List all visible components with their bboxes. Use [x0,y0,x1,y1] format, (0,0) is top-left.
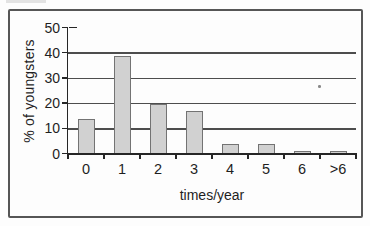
x-tick-mark-0 [67,154,69,159]
x-tick-label-1: 1 [104,160,140,178]
y-tick-mark-10 [62,128,68,130]
x-tick-label-0: 0 [68,160,104,178]
x-tick-mark-6 [283,154,285,159]
x-tick-label-6: 6 [284,160,320,178]
x-tick-mark-2 [139,154,141,159]
x-axis-title: times/year [68,187,356,203]
x-tick-mark-7 [319,154,321,159]
x-tick-label-2: 2 [140,160,176,178]
y-tick-mark-30 [62,77,68,79]
x-tick-mark-5 [247,154,249,159]
x-tick-label-3: 3 [176,160,212,178]
x-tick-mark-4 [211,154,213,159]
y-tick-mark-20 [62,102,68,104]
chart-figure: % of youngsters 01020304050 0123456>6 ti… [0,0,370,226]
y-tick-mark-top-inward [69,27,77,29]
x-tick-mark-1 [103,154,105,159]
y-tick-mark-50 [62,27,68,29]
x-tick-mark-8 [355,154,357,159]
x-tick-label-4: 4 [212,160,248,178]
x-tick-mark-3 [175,154,177,159]
x-tick-label-5: 5 [248,160,284,178]
x-tick-label->6: >6 [320,160,356,178]
ink-speck [318,85,321,88]
y-tick-mark-40 [62,52,68,54]
